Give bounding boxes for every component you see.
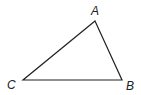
vertex-label-c: C: [7, 78, 16, 92]
triangle-abc: [23, 21, 122, 80]
vertex-label-a: A: [90, 4, 99, 18]
vertex-label-b: B: [126, 79, 134, 93]
triangle-diagram: A B C: [0, 0, 141, 95]
